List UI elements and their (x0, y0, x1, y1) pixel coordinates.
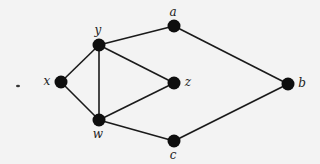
edge-x-y (61, 45, 99, 82)
node-label-y: y (94, 23, 102, 37)
node-x (55, 76, 68, 89)
node-label-x: x (44, 74, 51, 88)
node-y (93, 39, 106, 52)
node-a (168, 20, 181, 33)
node-label-b: b (298, 76, 306, 90)
node-b (282, 78, 295, 91)
node-z (168, 77, 181, 90)
edge-w-c (99, 120, 174, 141)
node-label-z: z (184, 75, 192, 89)
graph-diagram: xyazbwc (0, 0, 320, 164)
edge-y-z (99, 45, 174, 83)
edge-w-z (99, 83, 174, 120)
edge-x-w (61, 82, 99, 120)
scan-speck (16, 85, 20, 88)
node-label-w: w (93, 127, 104, 141)
node-label-c: c (170, 148, 177, 162)
edge-y-a (99, 26, 174, 45)
scan-artifacts-group (16, 85, 20, 88)
edge-c-b (174, 84, 288, 141)
node-c (168, 135, 181, 148)
nodes-group (55, 20, 295, 148)
node-w (93, 114, 106, 127)
node-label-a: a (169, 5, 176, 19)
